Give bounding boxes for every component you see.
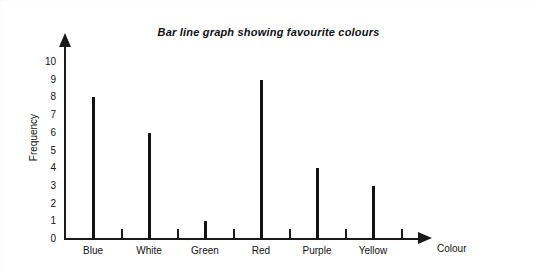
x-category-label-yellow: Yellow (343, 245, 403, 256)
y-tick-label: 10 (34, 57, 56, 67)
y-tick-label: 3 (34, 181, 56, 191)
scan-texture-overlay (0, 0, 537, 275)
bar-white (148, 133, 151, 239)
x-axis-tick (177, 229, 179, 239)
x-axis-tick (233, 229, 235, 239)
bar-blue (92, 97, 95, 239)
x-category-label-blue: Blue (63, 245, 123, 256)
bar-red (260, 80, 263, 239)
chart-title: Bar line graph showing favourite colours (0, 26, 537, 38)
y-axis-arrow-icon (59, 33, 71, 47)
y-tick-label: 0 (34, 234, 56, 244)
bar-purple (316, 168, 319, 239)
y-axis-line (64, 46, 66, 240)
y-tick-label: 9 (34, 75, 56, 85)
y-tick-label: 4 (34, 163, 56, 173)
y-tick-label: 5 (34, 146, 56, 156)
y-tick-label: 8 (34, 92, 56, 102)
x-axis-tick (289, 229, 291, 239)
y-tick-label: 1 (34, 216, 56, 226)
x-category-label-green: Green (175, 245, 235, 256)
x-axis-tick (121, 229, 123, 239)
y-tick-label: 2 (34, 199, 56, 209)
x-category-label-red: Red (231, 245, 291, 256)
x-axis-line (64, 238, 419, 240)
x-axis-arrow-icon (418, 232, 432, 244)
x-axis-title: Colour (437, 243, 466, 254)
y-tick-label: 6 (34, 128, 56, 138)
bar-chart: Bar line graph showing favourite colours… (0, 0, 537, 275)
bar-yellow (372, 186, 375, 239)
x-category-label-purple: Purple (287, 245, 347, 256)
y-tick-label: 7 (34, 110, 56, 120)
x-category-label-white: White (119, 245, 179, 256)
bar-green (204, 221, 207, 239)
x-axis-tick (345, 229, 347, 239)
x-axis-tick (401, 229, 403, 239)
